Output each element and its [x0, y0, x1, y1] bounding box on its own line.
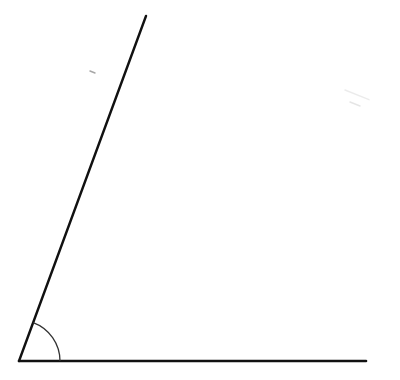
background [0, 0, 400, 380]
angle-diagram [0, 0, 400, 380]
